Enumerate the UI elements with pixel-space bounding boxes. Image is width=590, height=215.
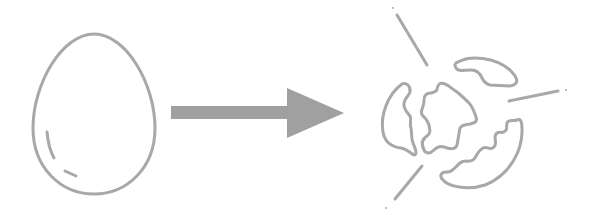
burst-line-top xyxy=(397,15,427,65)
broken-egg-icon xyxy=(382,7,567,209)
shell-fragment-bottom xyxy=(441,119,522,187)
burst-line-right xyxy=(509,91,558,101)
shell-fragment-top xyxy=(455,58,517,86)
burst-line-bottom xyxy=(395,166,422,199)
egg-breaking-diagram: Whole egg transforms into broken egg she… xyxy=(0,0,590,215)
shell-fragment-left xyxy=(382,83,416,155)
right-arrow-icon xyxy=(171,88,344,138)
whole-egg-icon xyxy=(33,34,155,194)
shell-fragment-center xyxy=(421,83,476,153)
